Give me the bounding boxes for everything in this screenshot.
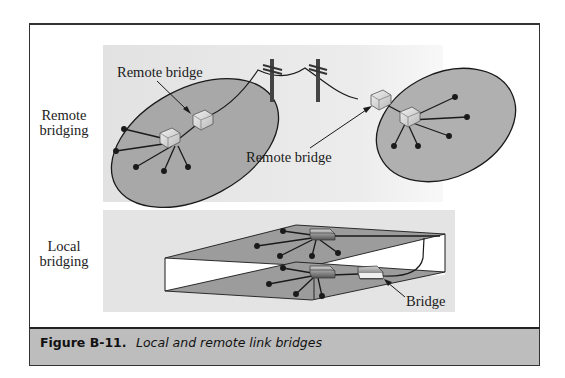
figure-caption: Local and remote link bridges — [136, 335, 322, 350]
remote-bridging-panel: Remote bridge Remote bridge — [90, 45, 535, 234]
figure-number: Figure B-11. — [40, 335, 127, 350]
bridge-callout: Bridge — [406, 293, 445, 309]
figure-caption-bar: Figure B-11. Local and remote link bridg… — [29, 327, 540, 366]
lan-hub-icon — [310, 266, 335, 278]
local-bridging-panel: Bridge — [103, 210, 455, 312]
local-bridge-icon — [358, 266, 383, 279]
bridging-diagram: Remote bridge Remote bridge — [0, 0, 565, 378]
lan-hub-icon — [310, 229, 335, 240]
remote-bridge-callout-left: Remote bridge — [117, 64, 203, 80]
remote-bridge-callout-right: Remote bridge — [246, 149, 332, 165]
